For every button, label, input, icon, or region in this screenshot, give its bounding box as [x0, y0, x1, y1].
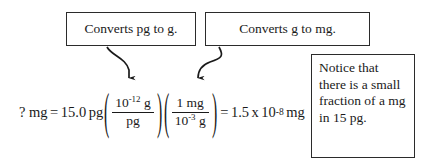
first-factor-denominator: pg: [123, 113, 143, 128]
first-conversion-factor: 10-12 g pg: [112, 96, 154, 127]
callout-converts-g-to-mg: Converts g to mg.: [205, 12, 370, 46]
result-unit: mg: [286, 104, 305, 121]
arrow-to-first-factor-icon: [107, 47, 129, 78]
callout-converts-pg-to-g: Converts pg to g.: [66, 12, 196, 46]
result-base: 10: [261, 104, 276, 121]
open-paren-first-factor: (: [104, 84, 109, 141]
second-factor-denominator: 10-3 g: [172, 113, 209, 128]
callout-notice-label: Notice that there is a small fraction of…: [319, 60, 408, 126]
result-times-symbol: x: [252, 104, 259, 121]
conversion-equation: ? mg = 15.0 pg ( 10-12 g pg ) ( 1 mg 10-…: [19, 88, 305, 136]
first-factor-numerator-coefficient: 10: [115, 95, 129, 110]
equation-equals-second: =: [220, 104, 228, 121]
equation-unknown-label: ? mg: [19, 104, 48, 121]
second-factor-denominator-exponent: -3: [188, 111, 195, 121]
first-factor-numerator: 10-12 g: [112, 96, 154, 111]
equation-equals-first: =: [50, 104, 58, 121]
first-factor-numerator-exponent: -12: [129, 94, 141, 104]
second-factor-denominator-coefficient: 10: [175, 113, 189, 128]
callout-converts-g-to-mg-label: Converts g to mg.: [239, 21, 336, 36]
equation-given-unit: pg: [89, 104, 104, 121]
second-factor-numerator: 1 mg: [173, 96, 206, 111]
close-paren-second-factor: ): [212, 84, 217, 141]
first-factor-numerator-unit: g: [144, 95, 151, 110]
close-paren-first-factor: ): [157, 84, 162, 141]
arrow-to-second-factor-icon: [198, 47, 222, 78]
open-paren-second-factor: (: [164, 84, 169, 141]
callout-notice: Notice that there is a small fraction of…: [311, 54, 415, 158]
result-coefficient: 1.5: [231, 104, 249, 121]
equation-given-value: 15.0: [61, 104, 86, 121]
second-factor-denominator-unit: g: [199, 113, 206, 128]
callout-converts-pg-to-g-label: Converts pg to g.: [85, 21, 178, 36]
second-conversion-factor: 1 mg 10-3 g: [172, 96, 209, 127]
figure-canvas: Converts pg to g. Converts g to mg. Noti…: [0, 0, 427, 167]
